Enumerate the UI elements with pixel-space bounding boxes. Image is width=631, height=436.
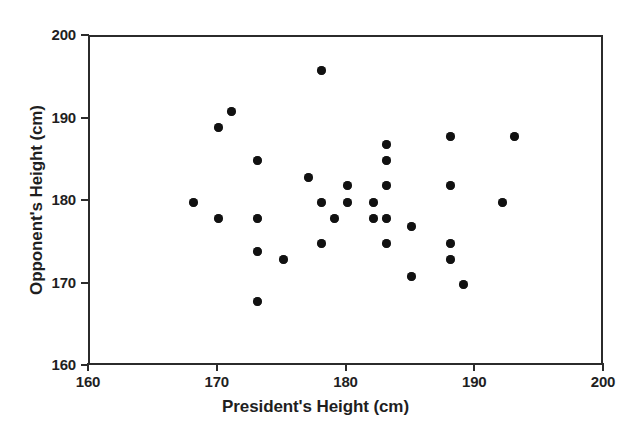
data-point	[317, 198, 326, 207]
data-point	[343, 181, 352, 190]
data-point	[498, 198, 507, 207]
data-point	[407, 272, 416, 281]
data-point	[382, 181, 391, 190]
data-point	[382, 156, 391, 165]
y-axis-tick-label: 160	[30, 356, 76, 373]
data-point	[382, 239, 391, 248]
data-point	[446, 181, 455, 190]
y-axis-tick	[81, 364, 89, 366]
data-point	[330, 214, 339, 223]
y-axis-tick-label: 190	[30, 109, 76, 126]
data-point	[253, 247, 262, 256]
data-point	[382, 214, 391, 223]
y-axis-tick	[81, 117, 89, 119]
x-axis-tick-label: 190	[444, 373, 504, 390]
x-axis-tick	[602, 363, 604, 371]
data-point	[446, 255, 455, 264]
data-point	[343, 198, 352, 207]
data-point	[253, 297, 262, 306]
data-point	[253, 214, 262, 223]
data-point	[446, 239, 455, 248]
x-axis-tick	[473, 363, 475, 371]
x-axis-title: President's Height (cm)	[0, 397, 631, 417]
y-axis-tick	[81, 199, 89, 201]
data-point	[214, 123, 223, 132]
x-axis-tick-label: 200	[573, 373, 631, 390]
data-point	[253, 156, 262, 165]
data-point	[446, 132, 455, 141]
data-point	[317, 239, 326, 248]
y-axis-tick	[81, 34, 89, 36]
y-axis-tick-label: 170	[30, 274, 76, 291]
data-points-layer	[90, 37, 601, 363]
data-point	[382, 140, 391, 149]
x-axis-tick-label: 170	[187, 373, 247, 390]
data-point	[317, 66, 326, 75]
data-point	[279, 255, 288, 264]
x-axis-tick	[345, 363, 347, 371]
data-point	[304, 173, 313, 182]
data-point	[189, 198, 198, 207]
y-axis-tick	[81, 282, 89, 284]
x-axis-tick	[216, 363, 218, 371]
data-point	[369, 198, 378, 207]
plot-area	[88, 35, 603, 365]
data-point	[459, 280, 468, 289]
scatter-plot-figure: Opponent's Height (cm) President's Heigh…	[0, 0, 631, 436]
data-point	[407, 222, 416, 231]
y-axis-tick-label: 200	[30, 26, 76, 43]
data-point	[227, 107, 236, 116]
data-point	[369, 214, 378, 223]
data-point	[214, 214, 223, 223]
x-axis-tick-label: 160	[58, 373, 118, 390]
data-point	[510, 132, 519, 141]
y-axis-tick-label: 180	[30, 191, 76, 208]
x-axis-tick-label: 180	[316, 373, 376, 390]
